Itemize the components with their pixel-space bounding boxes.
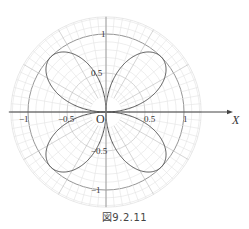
axes [9, 17, 233, 207]
grid-radial-line [181, 87, 198, 91]
grid-radial-line [126, 187, 130, 204]
figure-caption: 図9.2.11 [0, 209, 249, 224]
grid-radial-line [116, 124, 167, 185]
grid-radial-line [51, 34, 61, 48]
grid-radial-line [14, 132, 31, 136]
y-tick-label: −1 [91, 185, 101, 195]
grid-radial-line [126, 20, 130, 37]
x-tick-label: −0.5 [58, 114, 75, 124]
grid-radial-line [116, 39, 167, 100]
grid-radial-line [45, 39, 96, 100]
y-tick-label: −0.5 [91, 146, 108, 156]
grid-radial-line [113, 17, 114, 34]
grid-radial-line [170, 57, 184, 67]
grid-radial-line [181, 132, 198, 136]
grid-radial-line [98, 17, 99, 34]
y-tick-label: 1 [101, 29, 106, 39]
grid-radial-line [11, 104, 28, 105]
x-tick-label: 1 [183, 114, 188, 124]
grid-radial-line [81, 20, 85, 37]
grid-radial-line [39, 45, 51, 57]
grid-radial-line [161, 167, 173, 179]
grid-radial-line [51, 176, 61, 190]
grid-radial-line [81, 187, 85, 204]
grid-radial-line [151, 34, 161, 48]
grid-radial-line [45, 124, 96, 185]
grid-radial-line [151, 176, 161, 190]
grid-radial-line [28, 57, 42, 67]
grid-radial-line [39, 167, 51, 179]
grid-radial-line [33, 51, 94, 102]
grid-radial-line [33, 122, 94, 173]
y-tick-label: 0.5 [91, 68, 103, 78]
origin-label: O [96, 112, 105, 126]
x-tick-label: −1 [19, 114, 29, 124]
grid-radial-line [118, 51, 179, 102]
grid-radial-line [184, 104, 201, 105]
grid-radial-line [14, 87, 31, 91]
grid-radial-line [28, 157, 42, 167]
polar-rose-chart: −1−0.50.5110.5−0.5−1OX [0, 0, 249, 229]
grid-radial-line [113, 190, 114, 207]
grid-radial-line [161, 45, 173, 57]
x-tick-label: 0.5 [144, 114, 156, 124]
grid-radial-line [118, 122, 179, 173]
grid-radial-line [170, 157, 184, 167]
x-axis-label: X [231, 113, 240, 127]
